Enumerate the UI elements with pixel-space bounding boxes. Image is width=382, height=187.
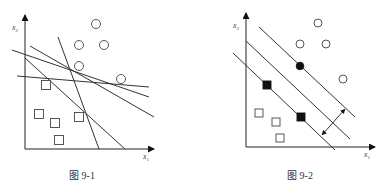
figure-caption: 图 9-2 <box>287 170 313 181</box>
negative-class-squares <box>35 81 84 145</box>
support-vector-square <box>263 81 271 89</box>
margin-lines <box>233 27 355 150</box>
support-vector-circle <box>296 62 304 70</box>
figure-9-1: x2 x1 图 9-1 <box>11 15 154 181</box>
figure-caption: 图 9-1 <box>69 170 95 181</box>
support-vector-square <box>297 113 305 121</box>
x-axis-label: x1 <box>363 150 370 160</box>
svm-diagram: x2 x1 图 9-1 x2 x1 <box>0 0 382 187</box>
upper-margin-line <box>259 27 355 117</box>
x-axis-label: x1 <box>142 152 149 162</box>
decision-boundary-line <box>246 41 350 139</box>
positive-class-circles <box>296 19 347 83</box>
y-axis-label: x2 <box>11 23 19 33</box>
y-axis-label: x2 <box>232 21 240 31</box>
separating-lines <box>12 37 154 149</box>
figure-9-2: x2 x1 图 9-2 <box>232 13 375 181</box>
